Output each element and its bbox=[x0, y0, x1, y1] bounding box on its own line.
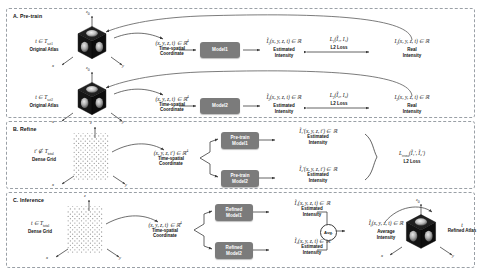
pretrain-row2-real-label: I2(x, y, z, t) ∈ ℝ Real Intensity bbox=[366, 94, 458, 114]
axis-label-z-refine: z bbox=[90, 120, 92, 126]
refine-source-label: t′ ∉ Ttotal Dense Grid bbox=[16, 148, 72, 163]
axis-label-x-pretrain-1: x bbox=[52, 63, 54, 69]
refined-model1-box[interactable]: RefinedModel1 bbox=[215, 204, 253, 221]
pretrain-row1-loss-label: L1(Ĩ₁, I₁) L2 Loss bbox=[313, 36, 365, 51]
axis-label-x-refined-atlas: x bbox=[381, 253, 383, 259]
pretrain-row2-coordinate-label: (x, y, z, t) ∈ ℝ4 Time-spatial Coordinat… bbox=[134, 94, 210, 113]
refined-atlas-label: t Refined Atlas bbox=[440, 222, 481, 234]
pretrain-model2-box-refine[interactable]: Pre-trainModel2 bbox=[221, 170, 259, 187]
axis-label-y-refined-atlas: y bbox=[452, 253, 454, 259]
section-title-refine: B. Refine bbox=[13, 126, 36, 132]
refine-output2-label: Ĩ₂′(x, y, z, t′) ∈ ℝ Estimated Intensity bbox=[272, 166, 364, 183]
axis-label-z-inference: z bbox=[84, 193, 86, 199]
section-title-pretrain: A. Pre-train bbox=[13, 13, 42, 19]
inference-coordinate-label: (x, y, z, t) ∈ ℝ4 Time-spatial Coordinat… bbox=[127, 220, 203, 239]
axis-label-y-inference: y bbox=[119, 255, 121, 261]
axis-label-y-pretrain-2: y bbox=[122, 119, 124, 125]
section-title-inference: C. Inference bbox=[13, 197, 44, 203]
pretrain-row1-source-label: t ∈ Tset1 Original Atlas bbox=[18, 38, 70, 53]
axis-label-x-inference: x bbox=[46, 255, 48, 261]
pretrain-row2-source-label: t ∈ Tset2 Original Atlas bbox=[18, 94, 70, 109]
inference-source-label: t ∈ Ttotal Dense Grid bbox=[12, 220, 68, 235]
figure-root: A. Pre-train B. Refine C. Inference bbox=[0, 0, 481, 279]
inference-average-label: Ĩf(x, y, z, t) ∈ ℝ Average Intensity bbox=[340, 220, 432, 240]
refine-loss-label: Lcross(Ĩ₁′, Ĩ₂′) L2 Loss bbox=[379, 150, 445, 165]
model2-box-pretrain[interactable]: Model2 bbox=[200, 98, 240, 114]
pretrain-row2-loss-label: L2(Ĩ₂, I₂) L2 Loss bbox=[313, 92, 365, 107]
pretrain-row1-coordinate-label: (x, y, z, t) ∈ ℝ4 Time-spatial Coordinat… bbox=[134, 38, 210, 57]
inference-output2-label: Ĩ₂(x, y, z, t) ∈ ℝ Estimated Intensity bbox=[266, 238, 358, 255]
refine-output1-label: Ĩ₁′(x, y, z, t′) ∈ ℝ Estimated Intensity bbox=[272, 128, 364, 145]
axis-label-y-refine: y bbox=[125, 182, 127, 188]
axis-label-z-refined-atlas: z0 bbox=[416, 197, 420, 205]
refine-coordinate-label: (x, y, z, t′) ∈ ℝ4 Time-spatial Coordina… bbox=[133, 148, 209, 167]
axis-label-z-pretrain-1: z0 bbox=[86, 9, 90, 17]
average-node: Avg. bbox=[320, 224, 337, 241]
pretrain-model1-box-refine[interactable]: Pre-trainModel1 bbox=[221, 132, 259, 149]
pretrain-row1-real-label: I1(x, y, z, t) ∈ ℝ Real Intensity bbox=[366, 38, 458, 58]
axis-label-x-refine: x bbox=[52, 182, 54, 188]
axis-label-x-pretrain-2: x bbox=[52, 119, 54, 125]
model1-box-pretrain[interactable]: Model1 bbox=[200, 42, 240, 58]
refined-model2-box[interactable]: RefinedModel2 bbox=[215, 242, 253, 259]
inference-output1-label: Ĩ₁(x, y, z, t) ∈ ℝ Estimated Intensity bbox=[266, 200, 358, 217]
axis-label-y-pretrain-1: y bbox=[122, 63, 124, 69]
axis-label-z-pretrain-2: z0 bbox=[86, 65, 90, 73]
